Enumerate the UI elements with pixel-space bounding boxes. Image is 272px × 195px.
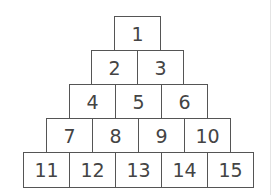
pyramid-cell: 11 — [23, 152, 70, 188]
right-edge-line — [270, 0, 271, 195]
pyramid-cell: 7 — [46, 118, 93, 154]
pyramid-row-2: 2 3 — [91, 50, 184, 85]
pyramid-cell: 13 — [115, 152, 162, 188]
pyramid-cell: 2 — [91, 50, 138, 86]
pyramid-cell: 6 — [161, 84, 208, 120]
pyramid-row-4: 7 8 9 10 — [46, 118, 231, 153]
pyramid-cell: 15 — [207, 152, 254, 188]
pyramid-cell: 3 — [137, 50, 184, 86]
pyramid-cell: 1 — [114, 16, 161, 52]
pyramid-cell: 5 — [115, 84, 162, 120]
pyramid-cell: 10 — [184, 118, 231, 154]
pyramid-cell: 9 — [138, 118, 185, 154]
pyramid-row-3: 4 5 6 — [69, 84, 208, 119]
pyramid-cell: 14 — [161, 152, 208, 188]
pyramid-row-1: 1 — [114, 16, 161, 51]
pyramid-cell: 4 — [69, 84, 116, 120]
pyramid-cell: 12 — [69, 152, 116, 188]
pyramid-cell: 8 — [92, 118, 139, 154]
pyramid-row-5: 11 12 13 14 15 — [23, 152, 254, 187]
